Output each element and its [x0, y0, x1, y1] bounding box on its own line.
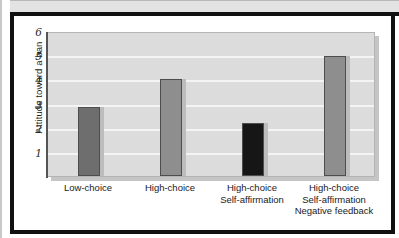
y-tick-label: 2: [35, 123, 42, 135]
plot-area: [47, 32, 375, 177]
figure-container: Attitude toward a ban 654321 Low-choiceH…: [0, 0, 399, 238]
y-tick-label: 6: [35, 26, 42, 38]
x-axis-labels: Low-choiceHigh-choiceHigh-choice Self-af…: [47, 182, 375, 228]
y-tick-label: 4: [35, 74, 42, 86]
x-tick-label: High-choice: [129, 182, 211, 194]
y-tick-label: 5: [35, 50, 42, 62]
y-tick-label: 3: [35, 99, 42, 111]
bar-chart: Attitude toward a ban 654321 Low-choiceH…: [14, 16, 391, 230]
bar[interactable]: [324, 56, 346, 176]
bar[interactable]: [78, 107, 100, 176]
page-left-edge: [0, 0, 2, 238]
y-tick-label: 1: [35, 147, 42, 159]
bar[interactable]: [160, 79, 182, 176]
y-axis-line: [46, 32, 48, 178]
bar[interactable]: [242, 123, 264, 176]
x-tick-label: High-choice Self-affirmation: [211, 182, 293, 205]
x-tick-label: High-choice Self-affirmation Negative fe…: [293, 182, 375, 217]
x-tick-label: Low-choice: [47, 182, 129, 194]
